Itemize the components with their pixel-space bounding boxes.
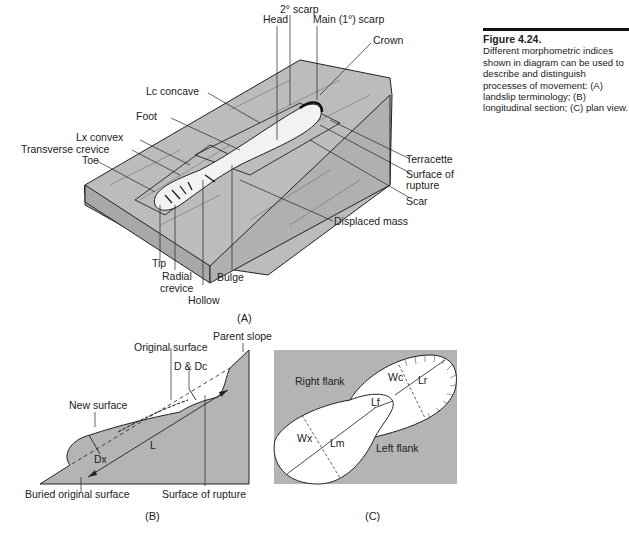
landslide-diagram: 2° scarp Head Main (1°) scarp Crown Lc c… (0, 0, 629, 536)
label-new-surface: New surface (69, 399, 128, 411)
label-lm: Lm (330, 437, 345, 449)
panel-b-label: (B) (145, 510, 160, 522)
label-terracette: Terracette (406, 153, 453, 165)
label-surface-of-rupture-b: Surface of rupture (162, 488, 246, 500)
label-head: Head (263, 13, 288, 25)
panel-b-section (40, 343, 249, 492)
panel-c-plan (274, 350, 457, 484)
label-scar: Scar (406, 195, 428, 207)
panel-a-label: (A) (237, 312, 252, 324)
panel-c-label: (C) (365, 510, 380, 522)
label-parent-slope: Parent slope (213, 330, 272, 342)
label-original-surface: Original surface (134, 341, 208, 353)
label-lx-convex: Lx convex (76, 131, 124, 143)
label-radial-crevice-1: Radial (162, 270, 192, 282)
label-lr: Lr (418, 374, 428, 386)
label-radial-crevice-2: crevice (160, 282, 193, 294)
label-dx: Dx (94, 453, 108, 465)
label-tip: Tip (152, 257, 166, 269)
label-crown: Crown (373, 34, 404, 46)
label-d-dc: D & Dc (174, 360, 207, 372)
label-wc: Wc (388, 371, 403, 383)
label-surface-of-rupture-2: rupture (406, 179, 439, 191)
label-right-flank: Right flank (295, 375, 345, 387)
label-lf: Lf (371, 396, 380, 408)
label-foot: Foot (136, 110, 157, 122)
label-main-scarp: Main (1°) scarp (313, 13, 384, 25)
label-bulge: Bulge (217, 271, 244, 283)
label-toe: Toe (82, 154, 99, 166)
label-hollow: Hollow (188, 294, 220, 306)
label-buried-original-surface: Buried original surface (25, 488, 130, 500)
label-lc-concave: Lc concave (146, 85, 199, 97)
label-l: L (150, 439, 156, 451)
label-displaced-mass: Displaced mass (334, 215, 408, 227)
label-wx: Wx (297, 432, 313, 444)
label-left-flank: Left flank (376, 442, 419, 454)
panel-a-block (85, 60, 392, 283)
